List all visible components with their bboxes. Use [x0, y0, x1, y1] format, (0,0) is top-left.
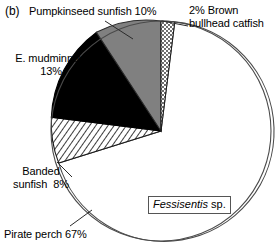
banded-label-line1: Banded	[22, 165, 59, 177]
species-rank: sp.	[208, 198, 226, 210]
pie-label-pirate-perch: Pirate perch 67%	[4, 228, 87, 241]
pie-label-brown-bullhead-catfish: 2% Brownbullhead catfish	[189, 4, 264, 29]
pie-label-banded-sunfish: Bandedsunfish 8%	[3, 165, 79, 190]
figure-panel: (b) Pumpkinseed sunfish 10% 2% Brownbull…	[0, 0, 278, 249]
catfish-label-line1: 2% Brown	[189, 4, 238, 16]
pie-label-e-mudminnow: E. mudminnow13%	[7, 52, 95, 77]
pie-label-pumpkinseed-sunfish: Pumpkinseed sunfish 10%	[29, 5, 156, 18]
mudminnow-label-line1: E. mudminnow	[15, 52, 87, 64]
species-genus: Fessisentis	[153, 198, 208, 210]
banded-label-line2: sunfish 8%	[13, 178, 69, 190]
leader-line-pirate	[70, 210, 92, 226]
catfish-label-line2: bullhead catfish	[189, 17, 264, 29]
mudminnow-label-line2: 13%	[40, 65, 62, 77]
panel-letter: (b)	[5, 5, 19, 18]
species-name-box: Fessisentis sp.	[148, 196, 231, 214]
pie-chart	[0, 0, 278, 249]
